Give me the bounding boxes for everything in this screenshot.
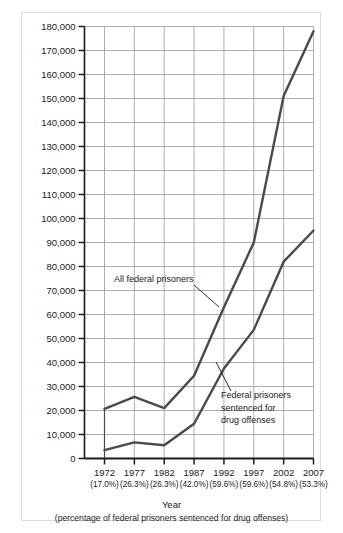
x-tick-percentage-label: (26.3%) [150, 480, 179, 489]
y-tick-label: 90,000 [46, 237, 75, 248]
y-tick-label: 40,000 [46, 357, 75, 368]
annotation-all-federal-prisoners-text: All federal prisoners [114, 274, 194, 284]
x-tick-label: 1992 [213, 467, 234, 478]
y-tick-label: 110,000 [42, 189, 76, 200]
annotation-drug-offenses-text: sentenced for [221, 403, 276, 413]
y-tick-label: 50,000 [46, 333, 75, 344]
x-tick-label: 2007 [303, 467, 324, 478]
x-tick-label: 1977 [124, 467, 145, 478]
series-line-all-federal-prisoners [105, 31, 314, 409]
y-axis [79, 27, 85, 459]
y-tick-label: 170,000 [41, 45, 75, 56]
x-tick-label: 2002 [273, 467, 294, 478]
y-tick-label: 150,000 [41, 93, 75, 104]
annotation-drug-offenses-text: drug offenses [221, 415, 276, 425]
y-tick-label: 180,000 [41, 21, 75, 32]
x-tick-label: 1987 [184, 467, 205, 478]
y-tick-label: 140,000 [41, 117, 75, 128]
x-tick-label: 1997 [243, 467, 264, 478]
grid-horizontal [85, 27, 314, 435]
y-tick-label: 120,000 [41, 165, 75, 176]
x-axis [85, 459, 314, 465]
y-tick-label: 130,000 [41, 141, 75, 152]
x-tick-label: 1972 [94, 467, 115, 478]
x-tick-percentage-label: (54.8%) [269, 480, 298, 489]
x-tick-label: 1982 [154, 467, 175, 478]
x-tick-percentage-label: (42.0%) [180, 480, 209, 489]
y-tick-label: 10,000 [46, 429, 75, 440]
x-tick-percentage-label: (53.3%) [299, 480, 328, 489]
y-tick-labels: 180,000170,000160,000150,000140,000130,0… [41, 21, 75, 464]
y-tick-label: 30,000 [46, 381, 75, 392]
y-tick-label: 160,000 [41, 69, 75, 80]
x-tick-percentage-labels: (17.0%)(26.3%)(26.3%)(42.0%)(59.6%)(59.6… [90, 480, 328, 489]
x-tick-percentage-label: (59.6%) [239, 480, 268, 489]
line-chart: 180,000170,000160,000150,000140,000130,0… [0, 0, 343, 533]
x-axis-subtitle: (percentage of federal prisoners sentenc… [55, 513, 289, 523]
y-tick-label: 80,000 [46, 261, 75, 272]
chart-figure: 180,000170,000160,000150,000140,000130,0… [0, 0, 343, 533]
x-axis-title: Year [162, 499, 181, 510]
x-tick-labels: 19721977198219871992199720022007 [94, 467, 324, 478]
annotations-group: All federal prisonersFederal prisonersse… [114, 274, 292, 425]
annotation-drug-offenses-text: Federal prisoners [221, 390, 292, 400]
x-tick-percentage-label: (17.0%) [90, 480, 119, 489]
y-tick-label: 100,000 [41, 213, 75, 224]
y-tick-label: 20,000 [46, 405, 75, 416]
y-tick-label: 70,000 [46, 285, 75, 296]
annotation-all-federal-prisoners-leader-line [194, 285, 219, 307]
y-tick-label: 60,000 [46, 309, 75, 320]
x-tick-percentage-label: (26.3%) [120, 480, 149, 489]
x-tick-percentage-label: (59.6%) [210, 480, 239, 489]
y-tick-label: 0 [70, 453, 75, 464]
